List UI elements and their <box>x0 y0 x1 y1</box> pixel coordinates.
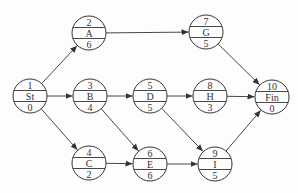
node-number: 2 <box>87 17 92 28</box>
node-label: H <box>206 91 213 102</box>
node-duration: 6 <box>87 39 92 50</box>
node-h: 8H3 <box>193 79 227 113</box>
node-duration: 4 <box>88 102 93 113</box>
node-number: 3 <box>88 80 93 91</box>
node-number: 7 <box>204 16 209 27</box>
edge-a-to-g <box>106 32 189 33</box>
edge-g-to-fin <box>218 44 259 85</box>
node-label: B <box>87 91 94 102</box>
node-number: 8 <box>208 80 213 91</box>
edge-d-to-i <box>162 108 203 151</box>
node-label: C <box>86 158 93 169</box>
node-duration: 2 <box>87 169 92 180</box>
edge-b-to-e <box>101 109 138 151</box>
node-duration: 6 <box>148 170 153 181</box>
node-label: D <box>146 91 153 102</box>
node-i: 9I5 <box>198 147 232 181</box>
node-duration: 3 <box>208 102 213 113</box>
node-duration: 0 <box>270 103 275 114</box>
node-d: 5D5 <box>133 79 167 113</box>
node-fin: 10Fin0 <box>255 80 289 114</box>
node-e: 6E6 <box>133 147 167 181</box>
network-diagram: 1St02A63B44C25D56E67G58H39I510Fin0 <box>0 0 298 193</box>
node-label: E <box>147 159 153 170</box>
node-number: 9 <box>213 148 218 159</box>
node-st: 1St0 <box>13 79 47 113</box>
node-number: 4 <box>87 147 92 158</box>
nodes: 1St02A63B44C25D56E67G58H39I510Fin0 <box>13 15 289 181</box>
node-number: 10 <box>267 81 277 92</box>
node-number: 6 <box>148 148 153 159</box>
node-number: 1 <box>28 80 33 91</box>
node-duration: 0 <box>28 102 33 113</box>
edge-st-to-c <box>41 109 77 150</box>
edge-st-to-a <box>42 46 77 84</box>
node-duration: 5 <box>204 38 209 49</box>
node-label: I <box>213 159 216 170</box>
node-a: 2A6 <box>72 16 106 50</box>
diagram-svg: 1St02A63B44C25D56E67G58H39I510Fin0 <box>0 0 298 193</box>
node-label: A <box>85 28 93 39</box>
node-b: 3B4 <box>73 79 107 113</box>
node-label: Fin <box>265 92 278 103</box>
node-label: G <box>202 27 209 38</box>
node-label: St <box>26 91 35 102</box>
node-g: 7G5 <box>189 15 223 49</box>
node-duration: 5 <box>148 102 153 113</box>
edge-i-to-fin <box>226 110 261 151</box>
node-c: 4C2 <box>72 146 106 180</box>
node-number: 5 <box>148 80 153 91</box>
node-duration: 5 <box>213 170 218 181</box>
